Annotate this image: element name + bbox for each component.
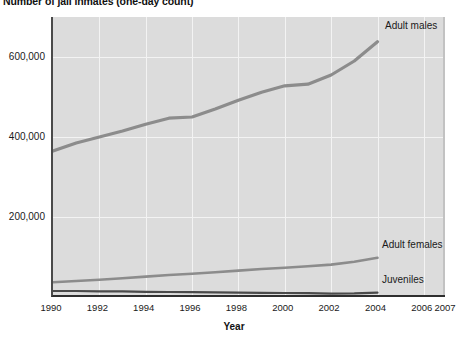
x-axis-title: Year (0, 321, 468, 332)
x-axis-tick-label: 1990 (40, 302, 61, 313)
x-axis-tick-label: 1996 (180, 302, 201, 313)
y-axis-tick-label: 400,000 (9, 131, 45, 142)
x-axis-tick-label: 2004 (365, 302, 386, 313)
series-lines (53, 17, 445, 297)
chart-title: Number of jail inmates (one-day count) (3, 0, 193, 7)
y-axis-tick-label: 200,000 (9, 211, 45, 222)
x-axis-tick-label: 1994 (133, 302, 154, 313)
series-line-juveniles (53, 291, 377, 294)
series-line-adult-females (53, 258, 377, 282)
chart-figure: Number of jail inmates (one-day count) 2… (0, 0, 468, 342)
series-label-adult-females: Adult females (382, 239, 443, 250)
series-label-juveniles: Juveniles (382, 274, 424, 285)
plot-area (51, 17, 445, 297)
x-axis-tick-label: 2000 (272, 302, 293, 313)
x-axis-tick-label: 2006 (411, 302, 432, 313)
x-axis-tick-label: 1992 (87, 302, 108, 313)
x-axis-tick-label: 2002 (319, 302, 340, 313)
x-axis-tick-label: 2007 (434, 302, 455, 313)
series-line-adult-males (53, 42, 377, 151)
x-axis-tick-label: 1998 (226, 302, 247, 313)
y-axis-tick-label: 600,000 (9, 51, 45, 62)
series-label-adult-males: Adult males (385, 20, 437, 31)
